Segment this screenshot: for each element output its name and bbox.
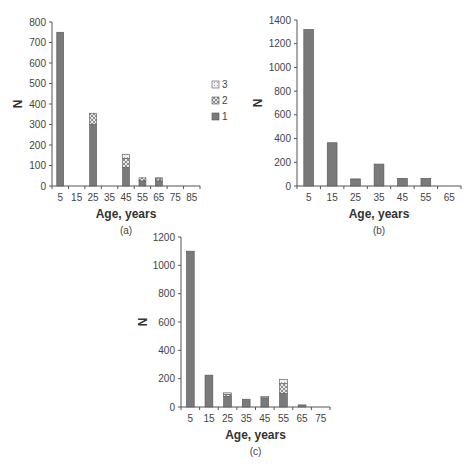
x-tick-label: 75 <box>170 192 182 203</box>
chart-a: 0100200300400500600700800515253545556575… <box>0 0 240 230</box>
y-tick-label: 800 <box>158 288 175 299</box>
y-tick-label: 1400 <box>269 15 292 26</box>
chart-b-canvas: 02004006008001000120014005152535455565NA… <box>240 0 471 230</box>
legend-label-1: 1 <box>222 111 228 122</box>
y-axis-title: N <box>136 318 150 327</box>
legend-swatch-3 <box>212 81 219 88</box>
x-tick-label: 45 <box>120 192 132 203</box>
bar-segment-series-2 <box>139 178 146 181</box>
y-tick-label: 200 <box>29 140 46 151</box>
y-tick-label: 600 <box>29 58 46 69</box>
bar-segment-series-1 <box>374 164 384 186</box>
y-tick-label: 200 <box>274 157 291 168</box>
bar-segment-series-1 <box>155 181 162 186</box>
x-tick-label: 35 <box>241 413 253 424</box>
bar-segment-series-2 <box>280 384 288 394</box>
bar-segment-series-2 <box>90 113 97 124</box>
chart-a-canvas: 0100200300400500600700800515253545556575… <box>0 0 240 230</box>
chart-caption: (c) <box>250 446 262 457</box>
bar-segment-series-3 <box>155 178 162 179</box>
y-tick-label: 400 <box>29 99 46 110</box>
y-tick-label: 1000 <box>269 62 292 73</box>
bar-segment-series-1 <box>304 29 314 186</box>
bar-segment-series-3 <box>123 154 130 158</box>
x-tick-label: 25 <box>88 192 100 203</box>
x-tick-label: 45 <box>259 413 271 424</box>
bar-segment-series-1 <box>186 251 194 407</box>
x-tick-label: 35 <box>373 192 385 203</box>
bar-segment-series-2 <box>155 179 162 181</box>
y-axis-title: N <box>251 99 265 108</box>
x-tick-label: 55 <box>420 192 432 203</box>
x-tick-label: 65 <box>153 192 165 203</box>
y-tick-label: 100 <box>29 160 46 171</box>
x-tick-label: 15 <box>327 192 339 203</box>
x-axis-title: Age, years <box>349 207 410 221</box>
x-tick-label: 5 <box>57 192 63 203</box>
x-tick-label: 45 <box>397 192 409 203</box>
legend-label-3: 3 <box>222 79 228 90</box>
bar-segment-series-1 <box>398 178 408 186</box>
bar-segment-series-1 <box>242 399 250 407</box>
bar-segment-series-1 <box>139 181 146 186</box>
x-tick-label: 65 <box>297 413 309 424</box>
y-tick-label: 1000 <box>153 260 176 271</box>
legend-swatch-2 <box>212 97 219 104</box>
y-tick-label: 800 <box>274 86 291 97</box>
y-tick-label: 800 <box>29 17 46 28</box>
bar-segment-series-1 <box>57 32 64 186</box>
x-tick-label: 55 <box>278 413 290 424</box>
x-tick-label: 15 <box>203 413 215 424</box>
bar-segment-series-1 <box>280 394 288 407</box>
y-tick-label: 300 <box>29 119 46 130</box>
bar-segment-series-1 <box>224 396 232 407</box>
bar-segment-series-1 <box>123 168 130 186</box>
y-tick-label: 0 <box>285 181 291 192</box>
legend-label-2: 2 <box>222 95 228 106</box>
y-tick-label: 1200 <box>153 232 176 243</box>
x-tick-label: 15 <box>71 192 83 203</box>
chart-c: 020040060080010001200515253545556575NAge… <box>100 225 360 464</box>
bar-segment-series-2 <box>123 158 130 167</box>
chart-c-canvas: 020040060080010001200515253545556575NAge… <box>100 225 360 464</box>
y-tick-label: 0 <box>40 181 46 192</box>
y-tick-label: 400 <box>158 345 175 356</box>
bar-segment-series-2 <box>224 394 232 396</box>
bar-segment-series-1 <box>351 179 361 186</box>
bar-segment-series-1 <box>261 398 269 407</box>
x-tick-label: 35 <box>104 192 116 203</box>
y-tick-label: 1200 <box>269 38 292 49</box>
x-tick-label: 85 <box>186 192 198 203</box>
y-tick-label: 0 <box>169 402 175 413</box>
x-tick-label: 55 <box>137 192 149 203</box>
x-tick-label: 75 <box>315 413 327 424</box>
bar-segment-series-3 <box>261 396 269 397</box>
bar-segment-series-3 <box>224 393 232 394</box>
chart-caption: (b) <box>373 225 385 236</box>
chart-b: 02004006008001000120014005152535455565NA… <box>240 0 471 230</box>
y-tick-label: 500 <box>29 78 46 89</box>
x-tick-label: 5 <box>306 192 312 203</box>
y-axis-title: N <box>11 100 25 109</box>
bar-segment-series-1 <box>298 405 306 407</box>
x-tick-label: 5 <box>188 413 194 424</box>
x-tick-label: 65 <box>444 192 456 203</box>
y-tick-label: 400 <box>274 133 291 144</box>
y-tick-label: 200 <box>158 373 175 384</box>
bar-segment-series-1 <box>421 178 431 186</box>
x-axis-title: Age, years <box>96 207 157 221</box>
legend-swatch-1 <box>212 113 219 120</box>
bar-segment-series-3 <box>280 379 288 383</box>
y-tick-label: 700 <box>29 37 46 48</box>
bar-segment-series-1 <box>205 375 213 407</box>
x-tick-label: 25 <box>222 413 234 424</box>
x-axis-title: Age, years <box>225 428 286 442</box>
bar-segment-series-1 <box>90 125 97 187</box>
y-tick-label: 600 <box>158 317 175 328</box>
x-tick-label: 25 <box>350 192 362 203</box>
bar-segment-series-1 <box>327 143 337 186</box>
y-tick-label: 600 <box>274 109 291 120</box>
